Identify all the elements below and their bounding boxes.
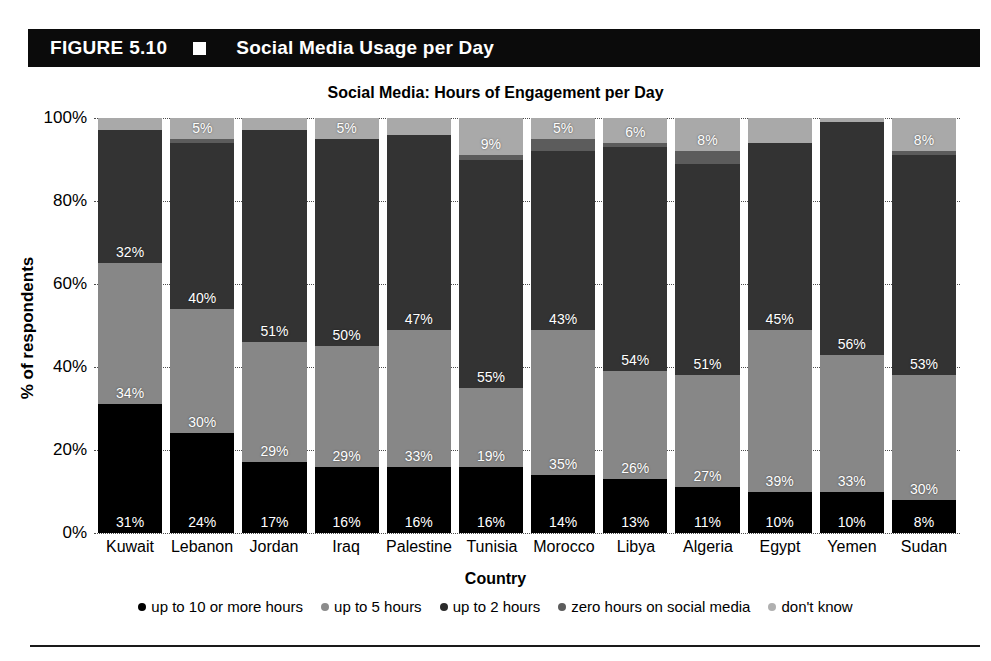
bar-segment[interactable]: 17% xyxy=(242,462,306,533)
bar-segment[interactable]: 10% xyxy=(748,492,812,534)
legend-item[interactable]: zero hours on social media xyxy=(558,598,750,615)
bar-segment[interactable] xyxy=(603,143,667,147)
bar-segment[interactable]: 11% xyxy=(675,487,739,533)
bar-segment[interactable]: 34% xyxy=(98,263,162,404)
legend-label: up to 2 hours xyxy=(453,598,541,615)
bar-column[interactable]: 10%39%45% xyxy=(748,118,812,533)
legend-swatch-icon xyxy=(768,603,776,611)
bar-segment[interactable]: 39% xyxy=(748,330,812,492)
bar-segment[interactable]: 8% xyxy=(675,118,739,151)
bar-segment[interactable]: 51% xyxy=(675,164,739,376)
bar-column[interactable]: 17%29%51% xyxy=(242,118,306,533)
bar-column[interactable]: 16%33%47% xyxy=(387,118,451,533)
bar-segment[interactable]: 26% xyxy=(603,371,667,479)
bar-segment-label: 8% xyxy=(697,133,717,151)
bar-segment[interactable] xyxy=(820,118,884,122)
bar-segment[interactable]: 13% xyxy=(603,479,667,533)
bar-segment[interactable] xyxy=(892,151,956,155)
bar-segment[interactable]: 24% xyxy=(170,433,234,533)
legend-item[interactable]: don't know xyxy=(768,598,852,615)
bar-segment-label: 30% xyxy=(188,415,216,433)
bar-segment[interactable]: 5% xyxy=(170,118,234,139)
legend-label: don't know xyxy=(781,598,852,615)
bar-segment[interactable]: 47% xyxy=(387,135,451,330)
bar-segment[interactable]: 30% xyxy=(892,375,956,500)
legend-item[interactable]: up to 5 hours xyxy=(321,598,422,615)
bar-segment-label: 51% xyxy=(260,324,288,342)
bar-column[interactable]: 16%19%55%9% xyxy=(459,118,523,533)
bar-segment-label: 19% xyxy=(477,449,505,467)
bar-segment[interactable] xyxy=(459,155,523,159)
bar-segment[interactable]: 16% xyxy=(459,467,523,533)
bottom-divider xyxy=(30,645,980,647)
bar-segment[interactable]: 56% xyxy=(820,122,884,354)
figure-number: FIGURE 5.10 xyxy=(50,37,167,59)
bar-segment[interactable] xyxy=(387,118,451,135)
bar-segment[interactable] xyxy=(675,151,739,163)
x-axis-tick-label: Libya xyxy=(604,538,668,556)
bar-column[interactable]: 11%27%51%8% xyxy=(675,118,739,533)
x-axis-tick-label: Jordan xyxy=(242,538,306,556)
bar-column[interactable]: 16%29%50%5% xyxy=(315,118,379,533)
bar-column[interactable]: 10%33%56% xyxy=(820,118,884,533)
bar-segment-label: 53% xyxy=(910,357,938,375)
bar-segment[interactable]: 19% xyxy=(459,388,523,467)
bar-segment-label: 32% xyxy=(116,245,144,263)
bar-segment[interactable] xyxy=(242,118,306,130)
bar-segment[interactable]: 51% xyxy=(242,130,306,342)
bar-segment[interactable]: 10% xyxy=(820,492,884,534)
white-square-icon xyxy=(193,42,206,55)
bar-segment[interactable]: 14% xyxy=(531,475,595,533)
bar-segment-label: 5% xyxy=(553,121,573,139)
bar-segment[interactable]: 29% xyxy=(315,346,379,466)
bar-segment[interactable]: 31% xyxy=(98,404,162,533)
bar-segment[interactable]: 8% xyxy=(892,118,956,151)
bar-column[interactable]: 14%35%43%5% xyxy=(531,118,595,533)
bar-segment[interactable]: 27% xyxy=(675,375,739,487)
bar-segment[interactable]: 6% xyxy=(603,118,667,143)
bar-segment[interactable]: 40% xyxy=(170,143,234,309)
bar-segment-label: 24% xyxy=(188,515,216,533)
bar-segment[interactable]: 55% xyxy=(459,160,523,388)
x-axis-title: Country xyxy=(0,570,991,588)
x-axis-tick-label: Lebanon xyxy=(170,538,234,556)
bar-segment-label: 51% xyxy=(693,357,721,375)
bar-column[interactable]: 31%34%32% xyxy=(98,118,162,533)
bar-segment[interactable]: 33% xyxy=(387,330,451,467)
bar-segment[interactable]: 53% xyxy=(892,155,956,375)
y-axis-tick-label: 20% xyxy=(53,440,94,460)
x-axis-tick-label: Iraq xyxy=(314,538,378,556)
bar-segment[interactable]: 32% xyxy=(98,130,162,263)
y-axis-tick-label: 0% xyxy=(62,523,94,543)
bar-column[interactable]: 24%30%40%5% xyxy=(170,118,234,533)
bar-column[interactable]: 8%30%53%8% xyxy=(892,118,956,533)
bar-segment[interactable]: 50% xyxy=(315,139,379,347)
bar-segment[interactable]: 8% xyxy=(892,500,956,533)
bar-column[interactable]: 13%26%54%6% xyxy=(603,118,667,533)
bar-segment[interactable] xyxy=(170,139,234,143)
bar-segment[interactable] xyxy=(531,139,595,151)
bar-segment[interactable]: 16% xyxy=(315,467,379,533)
bar-segment[interactable]: 9% xyxy=(459,118,523,155)
legend-item[interactable]: up to 10 or more hours xyxy=(138,598,303,615)
gridline xyxy=(94,533,960,534)
bar-segment-label: 50% xyxy=(333,328,361,346)
bar-segment[interactable]: 16% xyxy=(387,467,451,533)
bar-segment[interactable]: 43% xyxy=(531,151,595,329)
bar-segment[interactable]: 33% xyxy=(820,355,884,492)
bar-segment[interactable]: 5% xyxy=(531,118,595,139)
bar-segment-label: 16% xyxy=(333,515,361,533)
bar-segment[interactable]: 54% xyxy=(603,147,667,371)
bar-segment[interactable]: 45% xyxy=(748,143,812,330)
bar-segment[interactable]: 5% xyxy=(315,118,379,139)
bar-segment-label: 31% xyxy=(116,515,144,533)
bar-segment-label: 6% xyxy=(625,125,645,143)
bar-segment[interactable] xyxy=(98,118,162,130)
legend-swatch-icon xyxy=(138,603,146,611)
bar-segment[interactable]: 30% xyxy=(170,309,234,434)
legend-item[interactable]: up to 2 hours xyxy=(440,598,541,615)
bar-segment[interactable]: 29% xyxy=(242,342,306,462)
bar-segment-label: 9% xyxy=(481,137,501,155)
bar-segment[interactable] xyxy=(748,118,812,143)
bar-segment[interactable]: 35% xyxy=(531,330,595,475)
